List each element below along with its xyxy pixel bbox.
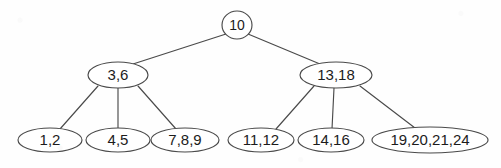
node-internal-left-label: 3,6	[108, 66, 129, 83]
edge-root-to-internal-left	[133, 34, 226, 64]
tree-canvas: 10 3,6 13,18 1,2 4,5 7,8,9	[0, 0, 501, 168]
node-internal-right[interactable]: 13,18	[300, 62, 372, 88]
node-root[interactable]: 10	[222, 11, 252, 39]
edge-internal-right-to-leaf-5	[332, 88, 334, 129]
edge-internal-left-to-leaf-1	[60, 86, 98, 129]
node-leaf-1-label: 1,2	[40, 131, 61, 148]
node-leaf-2[interactable]: 4,5	[86, 128, 150, 152]
tree-diagram: 10 3,6 13,18 1,2 4,5 7,8,9	[0, 0, 501, 168]
node-leaf-2-label: 4,5	[108, 131, 129, 148]
node-leaf-5[interactable]: 14,16	[298, 128, 364, 152]
node-leaf-5-label: 14,16	[312, 131, 350, 148]
node-leaf-3-label: 7,8,9	[168, 131, 201, 148]
edge-internal-right-to-leaf-4	[276, 86, 314, 129]
edge-internal-left-to-leaf-3	[138, 86, 176, 129]
edge-root-to-internal-right	[248, 34, 320, 64]
node-root-label: 10	[229, 17, 245, 33]
node-internal-right-label: 13,18	[317, 66, 355, 83]
node-leaf-4-label: 11,12	[243, 131, 279, 148]
node-group: 10 3,6 13,18 1,2 4,5 7,8,9	[18, 11, 488, 153]
node-leaf-4[interactable]: 11,12	[228, 128, 294, 152]
node-leaf-6[interactable]: 19,20,21,24	[372, 127, 488, 153]
node-internal-left[interactable]: 3,6	[88, 62, 148, 88]
node-leaf-6-label: 19,20,21,24	[390, 131, 469, 148]
node-leaf-3[interactable]: 7,8,9	[151, 128, 219, 152]
node-leaf-1[interactable]: 1,2	[18, 128, 82, 152]
edge-internal-right-to-leaf-6	[360, 86, 415, 128]
